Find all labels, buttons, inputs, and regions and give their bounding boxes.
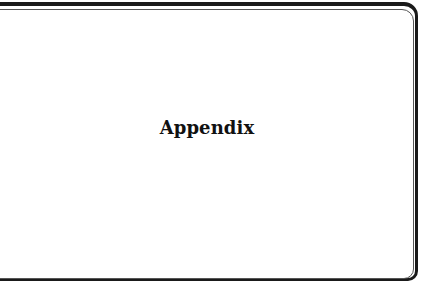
inner-page-frame bbox=[0, 9, 414, 279]
page-title: Appendix bbox=[0, 117, 414, 138]
